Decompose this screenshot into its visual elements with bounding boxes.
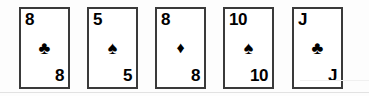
playing-card-3[interactable]: 8 ♦ 8 (155, 7, 206, 89)
spades-suit-icon: ♠ (89, 39, 136, 57)
spades-suit-icon: ♠ (225, 39, 272, 57)
card-rank-top-left: 10 (229, 10, 247, 30)
card-rank-top-left: J (298, 10, 307, 30)
playing-card-1[interactable]: 8 ♣ 8 (19, 7, 70, 89)
card-hand-container: 8 ♣ 8 5 ♠ 5 8 ♦ 8 10 ♠ 10 J ♣ J (0, 0, 369, 96)
card-rank-top-left: 8 (161, 10, 170, 30)
clubs-suit-icon: ♣ (21, 39, 68, 57)
card-rank-bottom-right: 8 (55, 66, 64, 86)
card-rank-bottom-right: J (328, 66, 337, 86)
card-rank-bottom-right: 10 (250, 66, 268, 86)
card-rank-top-left: 5 (93, 10, 102, 30)
scan-line-artifact (0, 92, 369, 93)
card-rank-bottom-right: 5 (123, 66, 132, 86)
scan-line-artifact-secondary (300, 80, 369, 81)
card-rank-bottom-right: 8 (191, 66, 200, 86)
diamonds-suit-icon: ♦ (157, 39, 204, 57)
playing-card-5[interactable]: J ♣ J (292, 7, 343, 89)
card-rank-top-left: 8 (25, 10, 34, 30)
playing-card-2[interactable]: 5 ♠ 5 (87, 7, 138, 89)
clubs-suit-icon: ♣ (294, 39, 341, 57)
playing-card-4[interactable]: 10 ♠ 10 (223, 7, 274, 89)
